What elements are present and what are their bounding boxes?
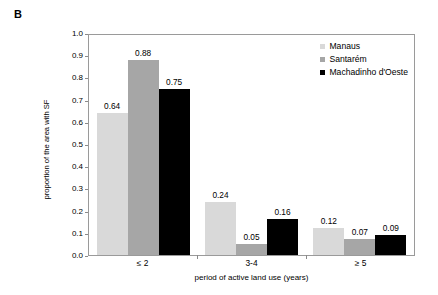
bar[interactable]	[375, 235, 406, 255]
legend-swatch-icon	[320, 57, 325, 62]
y-axis-tick-label: 0.2	[72, 207, 83, 216]
bar-value-label: 0.09	[383, 224, 399, 233]
legend-swatch-icon	[320, 70, 325, 75]
y-axis-tick-label: 0.8	[72, 73, 83, 82]
y-axis-tick-label: 0.1	[72, 229, 83, 238]
y-axis-tick-label: 0.9	[72, 51, 83, 60]
y-axis-tick-label: 0.3	[72, 184, 83, 193]
legend-label: Manaus	[329, 41, 360, 51]
bar[interactable]	[267, 219, 298, 255]
bar-group: 0.240.050.16	[197, 35, 305, 255]
x-axis-tick-label: 3-4	[197, 258, 306, 268]
y-axis-ticks: 1.00.90.80.70.60.50.40.30.20.10.0	[58, 34, 88, 256]
legend-swatch-icon	[320, 44, 325, 49]
bar-value-label: 0.12	[321, 217, 337, 226]
y-axis-tick-label: 1.0	[72, 29, 83, 38]
bar-value-label: 0.16	[274, 208, 290, 217]
legend-label: Santarém	[329, 54, 366, 64]
bar-value-label: 0.75	[166, 78, 182, 87]
bar-value-label: 0.05	[243, 233, 259, 242]
y-axis-tick-label: 0.4	[72, 162, 83, 171]
figure-panel-b: B proportion of the area with SF 1.00.90…	[0, 0, 438, 295]
bar[interactable]	[236, 244, 267, 255]
x-axis-title: period of active land use (years)	[88, 273, 415, 282]
y-axis-tick-label: 0.5	[72, 140, 83, 149]
bar[interactable]	[205, 202, 236, 255]
y-axis-tick-label: 0.7	[72, 96, 83, 105]
legend: ManausSantarémMachadinho d'Oeste	[320, 41, 408, 77]
legend-item[interactable]: Santarém	[320, 54, 408, 64]
bar[interactable]	[159, 89, 190, 256]
y-axis-tick-label: 0.6	[72, 118, 83, 127]
x-axis-tick-labels: ≤ 23-4≥ 5	[88, 258, 415, 268]
x-axis-tick-label: ≥ 5	[306, 258, 415, 268]
bar-value-label: 0.07	[352, 228, 368, 237]
bar-column: 0.88	[128, 35, 159, 255]
bar-value-label: 0.24	[212, 191, 228, 200]
legend-item[interactable]: Manaus	[320, 41, 408, 51]
bar-column: 0.24	[205, 35, 236, 255]
y-axis-tick-label: 0.0	[72, 251, 83, 260]
legend-label: Machadinho d'Oeste	[329, 67, 408, 77]
bar[interactable]	[128, 60, 159, 255]
panel-label: B	[14, 8, 22, 20]
legend-item[interactable]: Machadinho d'Oeste	[320, 67, 408, 77]
bar-group: 0.640.880.75	[89, 35, 197, 255]
x-axis-tick-label: ≤ 2	[88, 258, 197, 268]
plot-area: 0.640.880.750.240.050.160.120.070.09 Man…	[88, 34, 415, 256]
bar-column: 0.75	[159, 35, 190, 255]
bar[interactable]	[344, 239, 375, 255]
bar-column: 0.05	[236, 35, 267, 255]
bar-column: 0.16	[267, 35, 298, 255]
y-axis-title: proportion of the area with SF	[42, 40, 51, 260]
bar-value-label: 0.88	[135, 49, 151, 58]
bar-column: 0.64	[97, 35, 128, 255]
y-axis-tick-mark	[85, 256, 88, 257]
bar-value-label: 0.64	[104, 102, 120, 111]
bar[interactable]	[313, 228, 344, 255]
bar[interactable]	[97, 113, 128, 255]
